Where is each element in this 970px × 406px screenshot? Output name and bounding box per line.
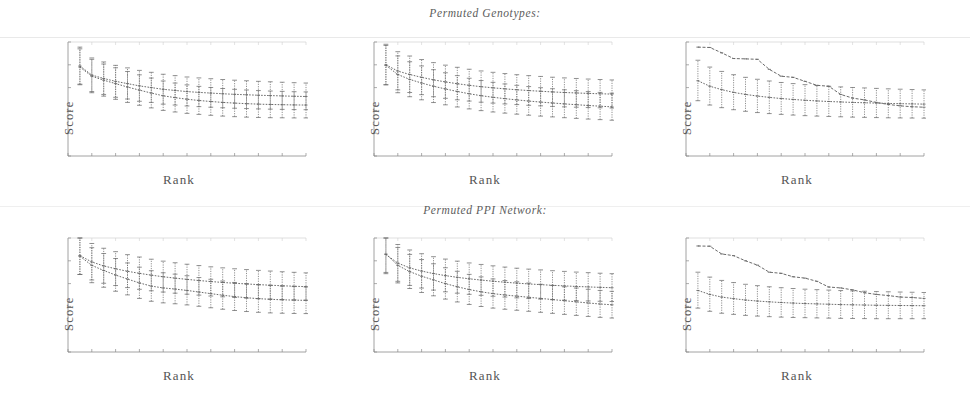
y-axis-label-top-right: Score: [680, 101, 695, 135]
section-title-genotypes: Permuted Genotypes:: [0, 7, 970, 19]
x-axis-label-top-right: Rank: [781, 172, 813, 188]
y-axis-label-top-middle: Score: [368, 101, 383, 135]
panel-top-left: [60, 40, 308, 172]
section-title-ppi-network: Permuted PPI Network:: [0, 204, 970, 216]
y-axis-label-bottom-left: Score: [62, 297, 77, 331]
panel-top-left-plot: [60, 40, 308, 172]
panel-bottom-left: [60, 236, 308, 368]
panel-bottom-right: [678, 236, 926, 368]
x-axis-label-bottom-middle: Rank: [469, 368, 501, 384]
scan-artifact-line-top: [0, 37, 970, 38]
x-axis-label-bottom-right: Rank: [781, 368, 813, 384]
x-axis-label-top-middle: Rank: [469, 172, 501, 188]
panel-bottom-right-plot: [678, 236, 926, 368]
panel-bottom-middle-plot: [366, 236, 614, 368]
x-axis-label-top-left: Rank: [163, 172, 195, 188]
panel-top-middle-plot: [366, 40, 614, 172]
panel-top-right-plot: [678, 40, 926, 172]
panel-top-right: [678, 40, 926, 172]
y-axis-label-bottom-right: Score: [680, 297, 695, 331]
panel-bottom-left-plot: [60, 236, 308, 368]
panel-bottom-middle: [366, 236, 614, 368]
figure-page: Permuted Genotypes: Permuted PPI Network…: [0, 0, 970, 406]
x-axis-label-bottom-left: Rank: [163, 368, 195, 384]
panel-top-middle: [366, 40, 614, 172]
y-axis-label-bottom-middle: Score: [368, 297, 383, 331]
y-axis-label-top-left: Score: [62, 101, 77, 135]
